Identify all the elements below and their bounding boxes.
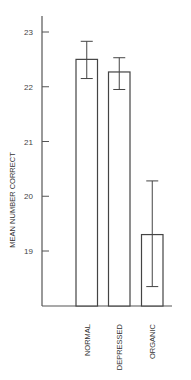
bar-chart: 1920212223 NORMALDEPRESSEDORGANIC MEAN N…: [0, 0, 191, 380]
x-category-label: DEPRESSED: [115, 323, 124, 370]
y-tick-label: 23: [24, 28, 33, 37]
y-tick-label: 19: [24, 247, 33, 256]
bars: [76, 41, 163, 306]
y-tick-label: 20: [24, 192, 33, 201]
y-tick-label: 22: [24, 83, 33, 92]
x-axis-labels: NORMALDEPRESSEDORGANIC: [83, 323, 158, 370]
y-tick-label: 21: [24, 138, 33, 147]
x-category-label: ORGANIC: [148, 323, 157, 359]
bar-depressed: [109, 72, 131, 306]
bar-normal: [76, 59, 98, 306]
y-axis-title: MEAN NUMBER CORRECT: [8, 152, 17, 248]
x-category-label: NORMAL: [83, 324, 92, 356]
